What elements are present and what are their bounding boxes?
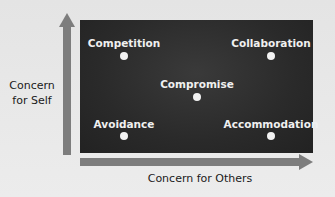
x-axis-label: Concern for Others [120, 171, 280, 186]
style-dot-avoidance [120, 132, 128, 140]
x-axis-arrow-shaft [80, 158, 300, 166]
diagram-canvas: Concernfor Self Concern for Others Compe… [0, 0, 335, 197]
y-axis-label: Concernfor Self [2, 78, 62, 108]
style-dot-compromise [193, 93, 201, 101]
y-axis-arrow-shaft [63, 26, 71, 155]
arrow-up-icon [59, 13, 75, 27]
style-label-competition: Competition [88, 37, 160, 49]
style-dot-collaboration [267, 52, 275, 60]
style-label-avoidance: Avoidance [94, 118, 155, 130]
style-dot-accommodation [267, 132, 275, 140]
arrow-right-icon [299, 154, 313, 170]
style-label-compromise: Compromise [160, 78, 234, 90]
style-label-collaboration: Collaboration [231, 37, 311, 49]
style-label-accommodation: Accommodation [224, 118, 319, 130]
style-dot-competition [120, 52, 128, 60]
